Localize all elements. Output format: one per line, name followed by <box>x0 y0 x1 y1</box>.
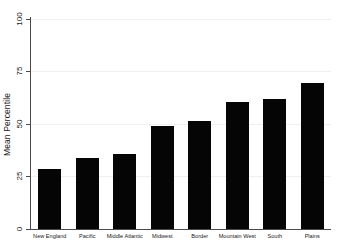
x-axis-label: Plains <box>305 233 320 240</box>
bar <box>301 83 324 229</box>
bar-chart: Mean Percentile 0255075100 New EnglandPa… <box>0 0 338 249</box>
bar <box>263 99 286 229</box>
x-axis-line <box>30 229 331 230</box>
y-tick-label: 25 <box>14 170 26 182</box>
x-axis-label: New England <box>33 233 66 240</box>
x-axis-label: Pacific <box>79 233 95 240</box>
y-tick-mark <box>26 19 31 20</box>
y-axis-title: Mean Percentile <box>0 0 14 249</box>
plot-area <box>31 19 331 229</box>
y-tick-mark <box>26 71 31 72</box>
y-tick-label: 75 <box>14 65 26 77</box>
y-tick-mark <box>26 176 31 177</box>
gridline <box>31 19 331 20</box>
y-tick-label: 50 <box>14 118 26 130</box>
bar <box>76 158 99 228</box>
x-axis-label: Border <box>191 233 208 240</box>
x-axis-label: Mountain West <box>219 233 256 240</box>
y-tick-mark <box>26 124 31 125</box>
bar <box>226 102 249 228</box>
y-tick-label: 100 <box>14 13 26 25</box>
bar <box>113 154 136 229</box>
x-axis-label: Midwest <box>152 233 173 240</box>
y-tick-label: 0 <box>14 223 26 235</box>
bar <box>38 169 61 229</box>
x-axis-label: South <box>267 233 282 240</box>
bar <box>151 126 174 228</box>
gridline <box>31 71 331 72</box>
y-tick-mark <box>26 229 31 230</box>
bar <box>188 121 211 228</box>
x-axis-label: Middle Atlantic <box>107 233 143 240</box>
